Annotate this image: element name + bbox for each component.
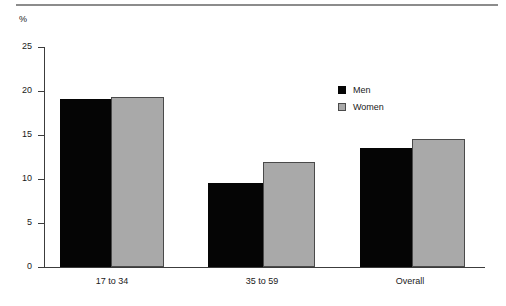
x-category-label-0: 17 to 34 — [96, 276, 129, 286]
x-category-label-1: 35 to 59 — [246, 276, 279, 286]
bar-men-1 — [208, 183, 263, 267]
legend-item-women: Women — [338, 98, 384, 115]
y-tick-mark — [38, 267, 44, 268]
bar-men-0 — [60, 99, 111, 267]
bar-women-2 — [412, 139, 465, 267]
legend-label-women: Women — [353, 102, 384, 112]
chart-plot-area: 0510152025 17 to 3435 to 59Overall — [0, 0, 506, 306]
x-category-label-2: Overall — [396, 276, 425, 286]
legend-label-men: Men — [353, 85, 371, 95]
legend-swatch-men-icon — [338, 86, 346, 94]
bar-men-2 — [360, 148, 412, 267]
legend-swatch-women-icon — [338, 103, 346, 111]
bar-women-1 — [263, 162, 315, 267]
bars-layer — [0, 0, 506, 267]
chart-legend: Men Women — [338, 81, 384, 115]
bar-women-0 — [111, 97, 164, 267]
legend-item-men: Men — [338, 81, 384, 98]
x-axis-baseline — [44, 267, 485, 268]
